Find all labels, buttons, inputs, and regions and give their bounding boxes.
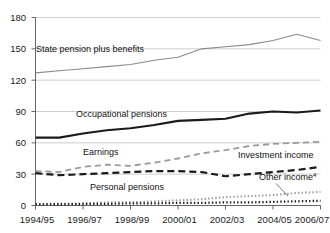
label-investment-income: Investment income <box>238 150 314 160</box>
x-tick-1998-99: 1998/99 <box>115 214 149 225</box>
y-tick-30: 30 <box>15 169 26 180</box>
label-state-pension-plus-benefits: State pension plus benefits <box>36 44 145 54</box>
series-line-other-income <box>36 201 321 205</box>
x-tick-2000-01: 2000/01 <box>162 214 196 225</box>
label-other-income-text: Other income <box>259 172 313 182</box>
label-personal-pensions: Personal pensions <box>90 182 165 192</box>
y-tick-150: 150 <box>10 43 26 54</box>
series-inline-labels: State pension plus benefits Occupational… <box>36 44 317 196</box>
line-chart: 180 150 120 90 60 30 0 1994/95 1996/97 1… <box>0 0 330 233</box>
x-tick-1994-95: 1994/95 <box>20 214 54 225</box>
chart-container: 180 150 120 90 60 30 0 1994/95 1996/97 1… <box>0 0 330 233</box>
y-tick-60: 60 <box>15 137 26 148</box>
x-axis-tick-labels: 1994/95 1996/97 1998/99 2000/01 2002/03 … <box>20 214 329 225</box>
x-tick-2002-03: 2002/03 <box>210 214 244 225</box>
y-tick-180: 180 <box>10 12 26 23</box>
other-income-leader-line <box>276 184 288 197</box>
x-tick-2004-05: 2004/05 <box>257 214 291 225</box>
y-tick-120: 120 <box>10 75 26 86</box>
y-tick-0: 0 <box>21 200 26 211</box>
x-tick-1996-97: 1996/97 <box>67 214 101 225</box>
label-earnings: Earnings <box>83 147 119 157</box>
label-other-income: Other income4 <box>259 172 317 183</box>
y-axis-tick-labels: 180 150 120 90 60 30 0 <box>10 12 26 211</box>
x-tick-2006-07: 2006/07 <box>295 214 329 225</box>
label-occupational-pensions: Occupational pensions <box>76 109 168 119</box>
y-tick-90: 90 <box>15 106 26 117</box>
